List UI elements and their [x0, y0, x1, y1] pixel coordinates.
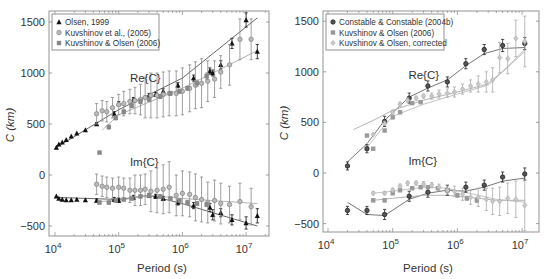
circle-marker [523, 172, 527, 176]
square-marker [371, 198, 375, 202]
square-marker [455, 193, 459, 197]
diamond-marker [514, 36, 518, 41]
x-tick-label: 104 [318, 237, 335, 251]
circle-marker [365, 208, 369, 212]
y-tick-label: 1500 [295, 15, 319, 27]
circle-marker [331, 20, 335, 24]
circle-marker [464, 62, 468, 66]
square-marker [410, 186, 414, 190]
y-tick-label: 500 [301, 116, 319, 128]
circle-marker [382, 212, 386, 216]
circle-marker [345, 208, 349, 212]
diamond-marker [497, 55, 501, 60]
circle-marker [426, 84, 430, 88]
figure: −500050010001500104105106107Period (s)C … [0, 0, 551, 279]
fit-line [354, 50, 525, 130]
legend-label: Kuvshinov & Olsen, corrected [339, 39, 447, 48]
diamond-marker [468, 195, 472, 200]
square-marker [426, 185, 430, 189]
circle-marker [407, 194, 411, 198]
square-marker [410, 101, 414, 105]
x-tick-label: 106 [447, 237, 464, 251]
right-plot: −500050010001500104105106107Period (s)C … [0, 0, 551, 279]
y-tick-label: 1000 [295, 66, 319, 78]
square-marker [365, 133, 369, 137]
circle-marker [345, 164, 349, 168]
diamond-marker [523, 203, 527, 208]
fit-line [367, 52, 525, 148]
x-axis-label: Period (s) [403, 262, 453, 274]
y-tick-label: −500 [294, 218, 319, 230]
square-marker [382, 128, 386, 132]
circle-marker [482, 47, 486, 51]
legend-label: Kuvshinov & Olsen (2006) [339, 29, 434, 38]
square-marker [371, 147, 375, 151]
circle-marker [500, 43, 504, 47]
square-marker [398, 110, 402, 114]
diamond-marker [429, 183, 433, 188]
legend-label: Constable & Constable (2004b) [339, 18, 454, 27]
square-marker [465, 196, 469, 200]
fit-line [348, 178, 525, 215]
circle-marker [464, 185, 468, 189]
fit-line [348, 48, 525, 162]
square-marker [382, 198, 386, 202]
circle-marker [445, 80, 449, 84]
circle-marker [500, 175, 504, 179]
im-label: Im{C} [408, 155, 437, 167]
y-axis-label: C (km) [278, 106, 290, 141]
data-series [365, 100, 479, 203]
circle-marker [365, 147, 369, 151]
diamond-marker [452, 89, 456, 94]
square-marker [418, 185, 422, 189]
square-marker [331, 30, 335, 34]
circle-marker [482, 183, 486, 187]
x-tick-label: 107 [512, 237, 529, 251]
re-label: Re{C} [408, 69, 439, 81]
y-tick-label: 0 [313, 167, 319, 179]
legend: Constable & Constable (2004b)Kuvshinov &… [326, 14, 454, 50]
circle-marker [426, 190, 430, 194]
diamond-marker [506, 56, 510, 61]
x-tick-label: 105 [382, 237, 399, 251]
square-marker [418, 100, 422, 104]
square-marker [391, 115, 395, 119]
